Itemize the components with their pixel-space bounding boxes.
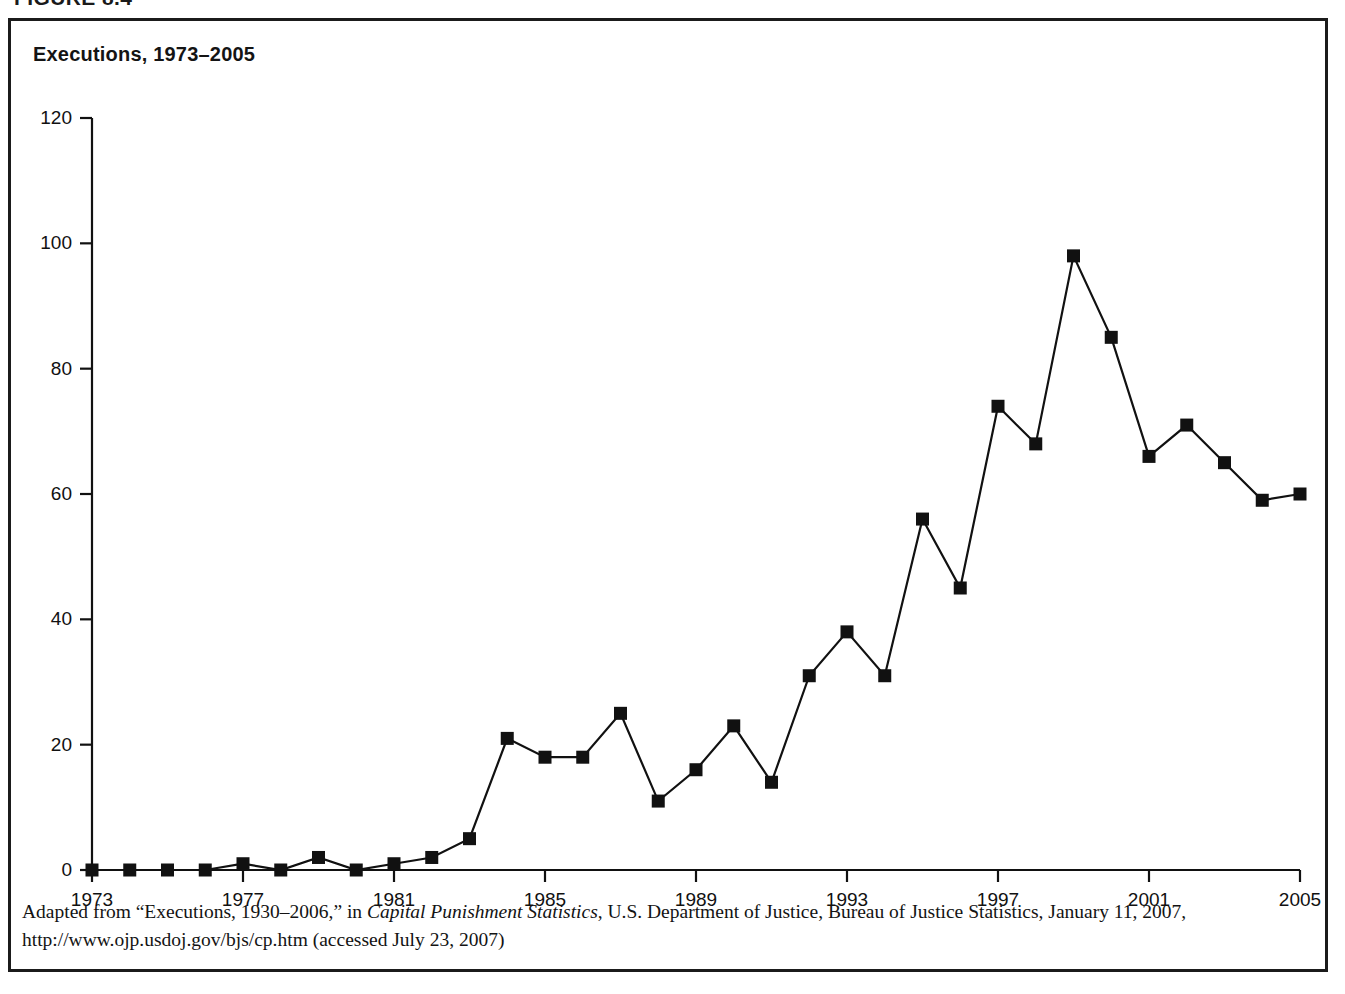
source-note-publication-title: Capital Punishment Statistics — [367, 901, 598, 922]
source-note: Adapted from “Executions, 1930–2006,” in… — [22, 898, 1292, 953]
figure-number-label: FIGURE 8.4 — [14, 0, 132, 10]
source-note-line1-prefix: Adapted from “Executions, 1930–2006,” in — [22, 901, 367, 922]
source-note-line1-suffix: , U.S. Department of Justice, Bureau of … — [598, 901, 1187, 922]
chart-title: Executions, 1973–2005 — [33, 43, 255, 66]
chart-data-summary: 1973: 0, 1974: 0, 1975: 0, 1976: 0, 1977… — [0, 0, 1, 1]
source-note-url-line: http://www.ojp.usdoj.gov/bjs/cp.htm (acc… — [22, 929, 504, 950]
figure-frame: Executions, 1973–2005 — [8, 18, 1328, 972]
